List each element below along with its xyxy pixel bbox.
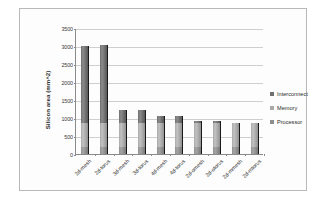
bar-segment-interconnect — [119, 110, 126, 124]
legend-swatch-icon — [270, 106, 274, 110]
bar-slot — [132, 29, 151, 154]
bar-segment-memory — [157, 123, 164, 146]
y-axis-title: Silicon area (mm^2) — [44, 70, 51, 129]
bar-segment-memory — [251, 123, 258, 146]
legend-label: Memory — [277, 105, 297, 111]
legend-item[interactable]: Interconnect — [270, 87, 325, 101]
bar-segment-memory — [100, 123, 107, 146]
bar-segment-processor — [81, 147, 88, 154]
x-tick-mark — [151, 154, 152, 156]
legend-label: Processor — [277, 119, 302, 125]
bar-segment-interconnect — [157, 116, 164, 124]
bar-segment-processor — [251, 147, 258, 154]
stacked-bar[interactable] — [232, 123, 240, 154]
bar-slot — [208, 29, 227, 154]
y-tick-label: 500 — [64, 134, 73, 140]
stacked-bar[interactable] — [119, 110, 127, 154]
bar-segment-memory — [175, 123, 182, 146]
bar-slot — [151, 29, 170, 154]
chart-frame: Silicon area (mm^2) 05001000150020002500… — [19, 8, 307, 191]
x-tick-mark — [245, 154, 246, 156]
x-tick-mark — [170, 154, 171, 156]
bar-segment-processor — [175, 147, 182, 154]
bar-segment-memory — [232, 123, 239, 146]
x-tick-mark — [208, 154, 209, 156]
y-tick-label: 0 — [70, 152, 73, 158]
stacked-bar[interactable] — [157, 116, 165, 154]
y-tick-label: 2000 — [61, 80, 73, 86]
stacked-bar[interactable] — [251, 123, 259, 154]
bar-segment-interconnect — [138, 110, 145, 123]
y-tick-label: 1500 — [61, 98, 73, 104]
x-tick-mark — [95, 154, 96, 156]
y-tick-label: 2500 — [61, 62, 73, 68]
y-tick-mark — [74, 155, 76, 156]
bar-segment-interconnect — [81, 46, 88, 123]
bar-segment-processor — [138, 147, 145, 154]
plot-area: 0500100015002000250030003500 2d-mesh2d-t… — [75, 29, 263, 155]
bar-segment-memory — [194, 123, 201, 146]
bar-slot — [189, 29, 208, 154]
x-tick-label: 2d-mtorus — [241, 158, 262, 179]
x-tick-label: 2d-mmesh — [221, 158, 243, 180]
x-tick-mark — [132, 154, 133, 156]
legend-item[interactable]: Memory — [270, 101, 325, 115]
bar-slot — [245, 29, 264, 154]
stacked-bar[interactable] — [194, 121, 202, 154]
x-tick-label: 4d-mesh — [149, 158, 168, 177]
stacked-bar[interactable] — [213, 121, 221, 154]
x-tick-label: 2d-torus — [93, 158, 111, 176]
bar-slot — [170, 29, 189, 154]
bar-segment-memory — [81, 123, 88, 146]
y-tick-label: 3000 — [61, 44, 73, 50]
stacked-bar[interactable] — [175, 116, 183, 154]
bar-segment-processor — [232, 147, 239, 154]
legend-item[interactable]: Processor — [270, 115, 325, 129]
legend-swatch-icon — [270, 92, 274, 96]
x-tick-label: 3d-mesh — [111, 158, 130, 177]
bar-series-group — [76, 29, 263, 154]
stacked-bar[interactable] — [100, 45, 108, 154]
x-tick-label: 2d-mesh — [74, 158, 93, 177]
bar-segment-processor — [119, 147, 126, 154]
x-tick-mark — [264, 154, 265, 156]
bar-segment-memory — [213, 123, 220, 146]
stacked-bar[interactable] — [138, 110, 146, 154]
stacked-bar[interactable] — [81, 46, 89, 154]
bar-slot — [95, 29, 114, 154]
bar-segment-memory — [119, 123, 126, 146]
bar-slot — [76, 29, 95, 154]
legend-swatch-icon — [270, 120, 274, 124]
x-tick-mark — [114, 154, 115, 156]
y-tick-label: 1000 — [61, 116, 73, 122]
x-tick-mark — [189, 154, 190, 156]
bar-segment-processor — [157, 147, 164, 154]
bar-segment-interconnect — [100, 45, 107, 123]
x-tick-mark — [226, 154, 227, 156]
x-tick-label: 3d-torus — [131, 158, 149, 176]
bar-segment-processor — [213, 147, 220, 154]
bar-segment-memory — [138, 123, 145, 146]
bar-segment-processor — [100, 147, 107, 154]
bar-segment-processor — [194, 147, 201, 154]
bar-slot — [114, 29, 133, 154]
bar-slot — [226, 29, 245, 154]
y-tick-label: 3500 — [61, 26, 73, 32]
legend-label: Interconnect — [277, 91, 308, 97]
chart-legend: InterconnectMemoryProcessor — [270, 87, 325, 129]
bar-segment-interconnect — [175, 116, 182, 123]
x-tick-label: 2d-omesh — [185, 158, 206, 179]
